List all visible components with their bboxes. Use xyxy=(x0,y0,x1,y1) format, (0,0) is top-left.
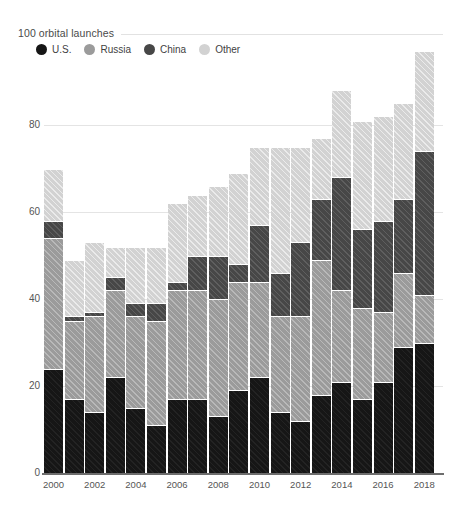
bar-segment-us xyxy=(44,369,63,473)
bar-segment-russia xyxy=(126,316,145,407)
bar-segment-us xyxy=(271,412,290,473)
bar-2018[interactable] xyxy=(415,51,434,473)
bar-segment-other xyxy=(271,147,290,273)
bar-segment-china xyxy=(332,177,351,290)
bar-segment-china xyxy=(85,312,104,316)
bar-segment-us xyxy=(374,382,393,473)
x-tick-label-2016: 2016 xyxy=(361,479,405,490)
bar-segment-other xyxy=(168,203,187,281)
bar-segment-china xyxy=(65,316,84,320)
bar-2015[interactable] xyxy=(353,121,372,473)
bar-segment-russia xyxy=(168,290,187,399)
bar-2001[interactable] xyxy=(65,260,84,473)
bar-2010[interactable] xyxy=(250,147,269,473)
bar-segment-other xyxy=(106,247,125,277)
bar-segment-russia xyxy=(229,282,248,391)
bar-segment-us xyxy=(126,408,145,473)
bar-2014[interactable] xyxy=(332,90,351,473)
bar-segment-us xyxy=(415,343,434,474)
bar-segment-other xyxy=(209,186,228,256)
bar-segment-china xyxy=(147,303,166,320)
bar-segment-russia xyxy=(147,321,166,425)
bar-segment-other xyxy=(353,121,372,230)
bar-segment-other xyxy=(312,138,331,199)
bar-2011[interactable] xyxy=(271,147,290,473)
bar-segment-us xyxy=(188,399,207,473)
bar-segment-us xyxy=(106,377,125,473)
x-tick-label-2008: 2008 xyxy=(196,479,240,490)
bar-segment-us xyxy=(291,421,310,473)
bar-segment-russia xyxy=(188,290,207,399)
bar-2005[interactable] xyxy=(147,247,166,473)
bar-2008[interactable] xyxy=(209,186,228,473)
bar-segment-china xyxy=(415,151,434,295)
bar-segment-russia xyxy=(394,273,413,347)
bar-segment-china xyxy=(271,273,290,317)
bar-segment-us xyxy=(312,395,331,473)
orbital-launches-chart: 100 orbital launches U.S.RussiaChinaOthe… xyxy=(0,0,457,516)
bar-segment-other xyxy=(374,116,393,220)
bar-segment-other xyxy=(65,260,84,317)
bar-segment-china xyxy=(168,282,187,291)
bar-segment-other xyxy=(126,247,145,304)
plot-area: 020406080 200020022004200620082010201220… xyxy=(0,0,457,516)
bar-segment-china xyxy=(106,277,125,290)
x-tick-label-2010: 2010 xyxy=(238,479,282,490)
bar-segment-china xyxy=(353,229,372,307)
bar-2003[interactable] xyxy=(106,247,125,473)
bar-segment-russia xyxy=(209,299,228,416)
bar-segment-russia xyxy=(312,260,331,395)
bar-segment-other xyxy=(394,103,413,199)
bar-segment-russia xyxy=(374,312,393,382)
bar-2006[interactable] xyxy=(168,203,187,473)
bar-segment-other xyxy=(85,242,104,312)
bar-2013[interactable] xyxy=(312,138,331,473)
bar-2002[interactable] xyxy=(85,242,104,473)
bar-segment-russia xyxy=(353,308,372,399)
bar-segment-other xyxy=(332,90,351,177)
bar-segment-us xyxy=(85,412,104,473)
x-tick-label-2012: 2012 xyxy=(279,479,323,490)
bar-segment-russia xyxy=(332,290,351,381)
x-tick-label-2018: 2018 xyxy=(402,479,446,490)
bar-2009[interactable] xyxy=(229,173,248,473)
bar-2017[interactable] xyxy=(394,103,413,473)
bar-segment-other xyxy=(229,173,248,264)
bar-segment-other xyxy=(147,247,166,304)
bar-segment-china xyxy=(291,242,310,316)
bar-segment-us xyxy=(168,399,187,473)
x-tick-label-2002: 2002 xyxy=(73,479,117,490)
bar-segment-other xyxy=(188,195,207,256)
bar-2000[interactable] xyxy=(44,169,63,474)
bar-segment-us xyxy=(250,377,269,473)
x-tick-label-2000: 2000 xyxy=(32,479,76,490)
bar-segment-us xyxy=(229,390,248,473)
bar-group xyxy=(0,0,457,516)
bar-segment-china xyxy=(44,221,63,238)
bar-segment-russia xyxy=(85,316,104,412)
bar-segment-russia xyxy=(44,238,63,369)
bar-segment-russia xyxy=(291,316,310,420)
bar-segment-china xyxy=(188,256,207,291)
bar-segment-us xyxy=(332,382,351,473)
x-axis-baseline xyxy=(42,473,444,475)
bar-segment-us xyxy=(353,399,372,473)
bar-segment-china xyxy=(394,199,413,273)
bar-segment-russia xyxy=(250,282,269,378)
bar-segment-other xyxy=(44,169,63,221)
x-tick-label-2004: 2004 xyxy=(114,479,158,490)
x-tick-label-2006: 2006 xyxy=(155,479,199,490)
bar-2007[interactable] xyxy=(188,195,207,473)
bar-segment-china xyxy=(250,225,269,282)
bar-segment-russia xyxy=(106,290,125,377)
bar-segment-other xyxy=(291,147,310,243)
bar-segment-russia xyxy=(65,321,84,399)
bar-segment-other xyxy=(415,51,434,151)
x-tick-label-2014: 2014 xyxy=(320,479,364,490)
bar-segment-us xyxy=(65,399,84,473)
bar-segment-us xyxy=(209,416,228,473)
bar-2004[interactable] xyxy=(126,247,145,473)
bar-segment-other xyxy=(250,147,269,225)
bar-2016[interactable] xyxy=(374,116,393,473)
bar-2012[interactable] xyxy=(291,147,310,473)
